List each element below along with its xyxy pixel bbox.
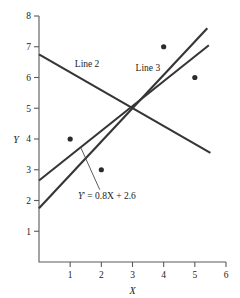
y-tick-label: 6 [26, 73, 31, 83]
scatter-plot-figure: 12345678123456 Line 2Line 3 Y' = 0.8X + … [0, 0, 240, 298]
x-axis-title: X [128, 285, 136, 296]
fitted-line-regression-line [39, 45, 209, 180]
x-tick-label: 4 [161, 270, 166, 280]
fitted-line-line-2 [39, 54, 210, 152]
y-axis-title: Y [13, 134, 20, 145]
data-point [161, 44, 166, 49]
fitted-line-line-3 [39, 28, 207, 208]
series-label-line-2: Line 2 [75, 59, 100, 69]
y-tick-label: 5 [26, 104, 31, 114]
equation-annotation: Y' = 0.8X + 2.6 [78, 191, 136, 201]
plot-canvas: 12345678123456 Line 2Line 3 Y' = 0.8X + … [0, 0, 240, 298]
data-point [192, 75, 197, 80]
data-point [68, 136, 73, 141]
x-tick-label: 5 [192, 270, 197, 280]
data-point [99, 167, 104, 172]
y-tick-label: 4 [26, 134, 31, 144]
x-tick-label: 2 [99, 270, 104, 280]
fitted-lines-group [39, 28, 210, 208]
axis-titles-group: YX [13, 134, 136, 296]
series-labels-group: Line 2Line 3 [75, 59, 161, 74]
y-tick-label: 1 [26, 227, 31, 237]
equation-annotation-group: Y' = 0.8X + 2.6 [78, 191, 136, 201]
y-tick-label: 8 [26, 11, 31, 21]
series-label-line-3: Line 3 [136, 63, 161, 73]
y-tick-label: 3 [26, 165, 31, 175]
x-tick-label: 3 [130, 270, 135, 280]
x-tick-label: 6 [224, 270, 229, 280]
y-tick-label: 7 [26, 42, 31, 52]
y-tick-label: 2 [26, 196, 31, 206]
x-tick-label: 1 [68, 270, 73, 280]
